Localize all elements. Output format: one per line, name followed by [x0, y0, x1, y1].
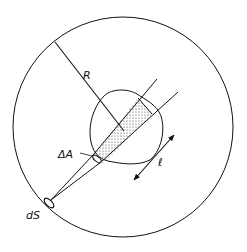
- diagram-canvas: R ΔA dS ℓ: [0, 0, 247, 252]
- area-element-leader: [80, 153, 92, 156]
- length-arrow: [134, 135, 174, 180]
- area-element-label: ΔA: [57, 148, 73, 161]
- radius-label: R: [83, 69, 91, 82]
- surface-element-label: dS: [26, 209, 40, 222]
- beam-edge-lower: [51, 162, 101, 200]
- stippled-column: [96, 98, 152, 164]
- beam-edge-upper: [51, 155, 93, 200]
- radius-line: [55, 42, 124, 131]
- length-label: ℓ: [157, 156, 163, 169]
